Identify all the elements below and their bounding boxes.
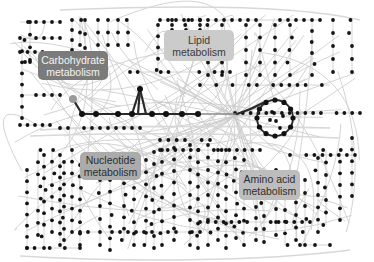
label-carbohydrate-metabolism: Carbohydrate metabolism [38,51,108,80]
label-line-1: Carbohydrate [41,54,105,66]
label-line-2: metabolism [84,166,138,178]
label-lipid-metabolism: Lipid metabolism [164,30,234,61]
label-line-2: metabolism [243,185,297,197]
label-amino-acid-metabolism: Amino acid metabolism [239,170,300,200]
label-line-1: Lipid [188,34,210,46]
label-line-1: Nucleotide [86,154,136,166]
label-line-2: metabolism [46,66,100,78]
label-line-2: metabolism [172,46,226,58]
label-nucleotide-metabolism: Nucleotide metabolism [80,152,141,180]
label-line-1: Amino acid [244,173,296,185]
